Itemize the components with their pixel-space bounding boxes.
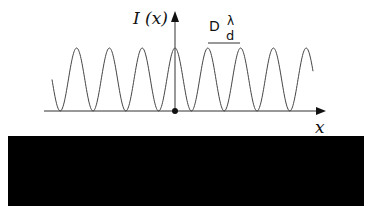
fringe-spacing-prefix: D bbox=[209, 18, 220, 34]
intensity-curve bbox=[52, 48, 313, 111]
black-panel bbox=[8, 136, 364, 206]
y-axis-label: I (x) bbox=[132, 8, 168, 28]
fringe-spacing-denominator: d bbox=[226, 28, 234, 43]
fringe-spacing-numerator: λ bbox=[227, 14, 234, 28]
origin-dot bbox=[172, 108, 178, 114]
y-axis-arrow-icon bbox=[171, 11, 179, 22]
x-axis-label: x bbox=[315, 117, 325, 137]
x-axis-arrow-icon bbox=[316, 107, 326, 115]
